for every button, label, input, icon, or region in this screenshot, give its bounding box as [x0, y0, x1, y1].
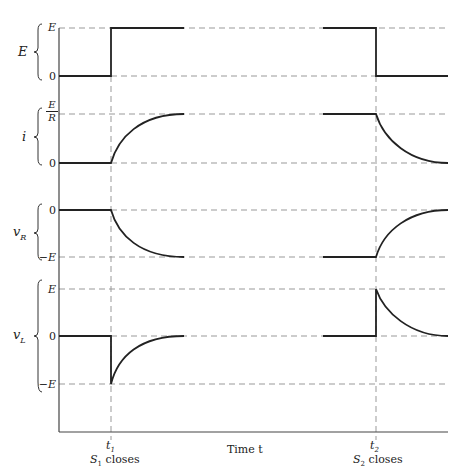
tick-0-vL: 0	[44, 331, 56, 342]
panel-label-vR: vR	[13, 225, 26, 242]
tick-0-E: 0	[44, 71, 56, 82]
panel-braces	[34, 24, 42, 392]
waveform-plot	[0, 0, 476, 476]
wave-E-t1	[59, 28, 184, 76]
tick-negE-vR: −E	[36, 252, 56, 263]
tick-negE-vL: −E	[36, 379, 56, 390]
wave-vR-t2	[323, 210, 448, 257]
panel-label-i: i	[22, 130, 26, 143]
tick-E-vL: E	[44, 284, 56, 295]
tick-0-vR: 0	[44, 205, 56, 216]
tick-E-over-R: ER	[46, 100, 58, 123]
t2-caption: S2 closes	[353, 454, 403, 468]
tick-0-i: 0	[44, 158, 56, 169]
wave-i-t1	[59, 114, 184, 163]
wave-vL-t1	[59, 336, 184, 384]
t1-caption: S1 closes	[90, 454, 140, 468]
panel-label-E: E	[18, 45, 28, 58]
tick-E-top: E	[44, 22, 56, 33]
waveforms	[59, 28, 448, 384]
axes	[59, 28, 448, 432]
wave-vL-t2	[323, 289, 448, 336]
wave-E-t2	[323, 28, 448, 76]
rl-transient-figure: E i vR vL E 0 ER 0 0 −E E 0 −E t1 S1 clo…	[0, 0, 476, 476]
wave-i-t2	[323, 114, 448, 163]
wave-vR-t1	[59, 210, 184, 257]
panel-label-vL: vL	[13, 328, 26, 345]
x-axis-label: Time t	[227, 444, 263, 455]
